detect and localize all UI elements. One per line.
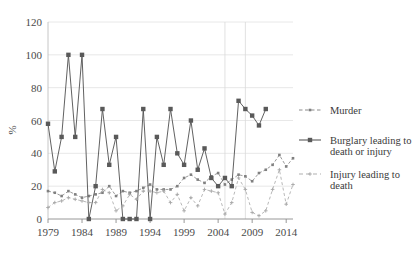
data-point xyxy=(196,204,200,208)
x-tick-label: 1994 xyxy=(139,226,162,238)
legend-label-line2: death or injury xyxy=(330,146,393,157)
data-point xyxy=(156,188,159,191)
data-point xyxy=(308,172,312,176)
x-tick-label: 2009 xyxy=(241,226,264,238)
data-point xyxy=(257,214,261,218)
data-point xyxy=(169,188,172,191)
data-point xyxy=(121,217,125,221)
data-point xyxy=(107,191,111,195)
data-point xyxy=(244,188,248,192)
data-point xyxy=(148,217,152,221)
data-point xyxy=(244,175,247,178)
data-point xyxy=(237,173,240,176)
legend-item-3: Injury leading todeath xyxy=(299,169,400,192)
data-point xyxy=(182,209,186,213)
data-point xyxy=(87,217,91,221)
series-1 xyxy=(47,154,295,199)
data-point xyxy=(230,184,234,188)
data-point xyxy=(237,176,241,180)
data-point xyxy=(122,190,125,193)
data-point xyxy=(66,53,70,57)
data-point xyxy=(155,191,159,195)
data-point xyxy=(141,189,145,193)
data-point xyxy=(202,146,206,150)
y-axis-title: % xyxy=(6,125,18,134)
legend-label-line2: death xyxy=(330,180,353,191)
x-axis-ticks: 19791984198919941999200420092014 xyxy=(37,219,298,238)
y-axis-ticks: 020406080100120 xyxy=(26,16,43,225)
y-tick-label: 0 xyxy=(37,213,43,225)
data-point xyxy=(60,199,64,203)
y-tick-label: 100 xyxy=(26,49,43,61)
data-point xyxy=(73,198,77,202)
data-point xyxy=(257,123,261,127)
series-2 xyxy=(46,53,268,222)
data-point xyxy=(223,176,227,180)
legend-label: Injury leading to xyxy=(330,169,400,180)
data-point xyxy=(74,193,77,196)
data-point xyxy=(292,157,295,160)
data-point xyxy=(47,190,50,193)
data-point xyxy=(182,163,186,167)
data-point xyxy=(53,169,57,173)
data-point xyxy=(59,135,63,139)
data-point xyxy=(94,193,97,196)
data-point xyxy=(141,107,145,111)
data-point xyxy=(236,99,240,103)
data-point xyxy=(46,122,50,126)
data-point xyxy=(217,172,220,175)
data-point xyxy=(134,217,138,221)
data-point xyxy=(210,189,214,193)
data-point xyxy=(190,173,193,176)
data-point xyxy=(264,107,268,111)
data-point xyxy=(285,165,288,168)
y-tick-label: 60 xyxy=(31,115,43,127)
legend-label: Murder xyxy=(330,105,362,116)
data-point xyxy=(308,138,312,142)
data-point xyxy=(216,191,220,195)
data-point xyxy=(80,53,84,57)
data-point xyxy=(115,195,118,198)
data-point xyxy=(196,178,199,181)
legend-item-2: Burglary leading todeath or injury xyxy=(299,135,411,158)
data-series xyxy=(46,53,295,222)
x-tick-label: 1984 xyxy=(71,226,94,238)
data-point xyxy=(176,185,179,188)
series-line xyxy=(48,155,293,198)
y-tick-label: 20 xyxy=(31,180,43,192)
data-point xyxy=(80,199,84,203)
data-point xyxy=(60,195,63,198)
data-point xyxy=(264,168,267,171)
data-point xyxy=(87,201,91,205)
data-point xyxy=(135,190,138,193)
data-point xyxy=(161,163,165,167)
data-point xyxy=(127,217,131,221)
data-point xyxy=(196,168,200,172)
data-point xyxy=(223,212,227,216)
data-point xyxy=(67,190,70,193)
data-point xyxy=(258,172,261,175)
data-point xyxy=(189,196,193,200)
data-point xyxy=(284,202,288,206)
chart-container: 020406080100120 197919841989199419992004… xyxy=(0,0,415,265)
x-tick-label: 2014 xyxy=(275,226,298,238)
data-point xyxy=(175,151,179,155)
data-point xyxy=(169,201,173,205)
data-point xyxy=(250,113,254,117)
line-chart: 020406080100120 197919841989199419992004… xyxy=(0,0,415,265)
data-point xyxy=(142,187,145,190)
data-point xyxy=(271,164,274,167)
data-point xyxy=(216,184,220,188)
data-point xyxy=(168,107,172,111)
data-point xyxy=(107,163,111,167)
data-point xyxy=(203,188,207,192)
data-point xyxy=(93,184,97,188)
data-point xyxy=(67,196,71,200)
data-point xyxy=(100,107,104,111)
data-point xyxy=(271,188,275,192)
data-point xyxy=(54,191,57,194)
data-point xyxy=(108,185,111,188)
y-tick-label: 40 xyxy=(31,147,43,159)
data-point xyxy=(278,168,282,172)
legend-item-1: Murder xyxy=(299,105,362,116)
